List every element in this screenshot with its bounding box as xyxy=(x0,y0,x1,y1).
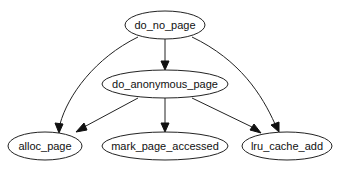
arrowhead-icon xyxy=(76,123,87,132)
edge-do-anonymous-page-to-mark-page-accessed xyxy=(161,98,169,132)
arrowhead-icon xyxy=(271,122,279,132)
node-label: lru_cache_add xyxy=(251,140,323,152)
edge-do-anonymous-page-to-lru-cache-add xyxy=(192,98,261,133)
node-label: do_anonymous_page xyxy=(112,78,218,90)
node-do-anonymous-page[interactable]: do_anonymous_page xyxy=(102,70,228,98)
node-label: mark_page_accessed xyxy=(111,140,219,152)
call-graph-diagram: do_no_page do_anonymous_page alloc_page … xyxy=(0,0,351,172)
arrowhead-icon xyxy=(161,123,169,132)
edge-do-anonymous-page-to-alloc-page xyxy=(76,98,138,132)
node-lru-cache-add[interactable]: lru_cache_add xyxy=(242,132,332,160)
node-label: do_no_page xyxy=(134,19,195,31)
node-alloc-page[interactable]: alloc_page xyxy=(8,132,82,160)
node-mark-page-accessed[interactable]: mark_page_accessed xyxy=(102,132,228,160)
node-do-no-page[interactable]: do_no_page xyxy=(125,11,205,39)
arrowhead-icon xyxy=(161,61,169,70)
arrowhead-icon xyxy=(55,123,63,133)
edge-do-no-page-to-do-anonymous-page xyxy=(161,39,169,70)
node-label: alloc_page xyxy=(18,140,71,152)
arrowhead-icon xyxy=(250,124,261,133)
